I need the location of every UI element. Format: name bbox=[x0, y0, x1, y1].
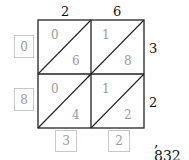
right-digit-2: 2 bbox=[149, 96, 157, 109]
result-text: , 832 bbox=[154, 135, 189, 160]
left-sum-box-2: 8 bbox=[14, 88, 34, 111]
cell-r2c1-ones: 4 bbox=[72, 109, 80, 121]
cell-r2c2-ones: 2 bbox=[124, 109, 132, 121]
cell-r1c1-ones: 6 bbox=[72, 55, 80, 67]
cell-r2c2-tens: 1 bbox=[102, 83, 110, 95]
bottom-sum-box-1: 3 bbox=[55, 130, 77, 152]
top-digit-1: 2 bbox=[61, 5, 69, 18]
top-digit-2: 6 bbox=[113, 5, 121, 18]
bottom-sum-box-2: 2 bbox=[108, 130, 130, 152]
cell-r1c2-tens: 1 bbox=[102, 29, 110, 41]
cell-r2c1-tens: 0 bbox=[51, 83, 59, 95]
cell-r1c1-tens: 0 bbox=[51, 29, 59, 41]
cell-r1c2-ones: 8 bbox=[124, 55, 132, 67]
right-digit-1: 3 bbox=[149, 42, 157, 55]
left-sum-box-1: 0 bbox=[14, 35, 34, 58]
